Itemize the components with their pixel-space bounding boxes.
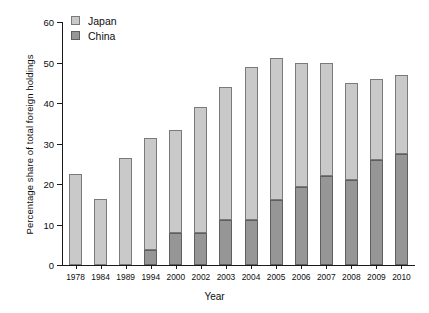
bar-segment-china-2007[interactable] xyxy=(320,176,333,265)
y-tick-label: 50 xyxy=(43,57,54,68)
bar-segment-china-2004[interactable] xyxy=(245,220,258,265)
bar-segment-china-2009[interactable] xyxy=(370,160,383,265)
x-tick-mark-1989 xyxy=(126,265,127,269)
bar-segment-japan-2005[interactable] xyxy=(270,58,283,200)
bar-segment-japan-2000[interactable] xyxy=(169,130,182,232)
bar-segment-china-2003[interactable] xyxy=(219,220,232,265)
x-tick-mark-2004 xyxy=(251,265,252,269)
y-tick-label: 60 xyxy=(43,17,54,28)
chart-legend: Japan China xyxy=(71,14,117,44)
legend-item-china: China xyxy=(71,29,117,42)
x-tick-mark-1984 xyxy=(101,265,102,269)
x-tick-mark-2006 xyxy=(301,265,302,269)
legend-label-japan: Japan xyxy=(88,15,117,27)
y-tick-mark xyxy=(57,103,62,104)
y-tick-mark xyxy=(57,22,62,23)
legend-swatch-japan-icon xyxy=(71,16,80,25)
y-tick-mark xyxy=(57,184,62,185)
legend-label-china: China xyxy=(88,30,115,42)
bar-segment-japan-2008[interactable] xyxy=(345,83,358,180)
x-tick-label-2002: 2002 xyxy=(192,272,211,282)
x-tick-label-1978: 1978 xyxy=(66,272,85,282)
y-tick-label: 40 xyxy=(43,98,54,109)
x-tick-mark-2010 xyxy=(401,265,402,269)
x-tick-mark-2003 xyxy=(226,265,227,269)
y-axis-title: Percentage share of total foreign holdin… xyxy=(24,20,35,270)
x-axis-line xyxy=(62,265,415,266)
y-tick-mark xyxy=(57,265,62,266)
bar-segment-japan-1984[interactable] xyxy=(94,199,107,265)
x-tick-mark-2002 xyxy=(201,265,202,269)
bar-segment-china-2010[interactable] xyxy=(395,154,408,265)
bar-segment-japan-2010[interactable] xyxy=(395,75,408,154)
bar-segment-china-2005[interactable] xyxy=(270,200,283,265)
plot-area: 0102030405060 19781984198919942000200220… xyxy=(62,22,414,265)
x-tick-label-2010: 2010 xyxy=(392,272,411,282)
bar-segment-japan-2007[interactable] xyxy=(320,63,333,176)
x-tick-mark-1978 xyxy=(76,265,77,269)
bar-segment-japan-2004[interactable] xyxy=(245,67,258,221)
x-tick-label-1994: 1994 xyxy=(141,272,160,282)
bar-segment-china-1994[interactable] xyxy=(144,250,157,265)
y-tick-mark xyxy=(57,225,62,226)
x-tick-mark-2009 xyxy=(376,265,377,269)
x-tick-label-2009: 2009 xyxy=(367,272,386,282)
bar-segment-japan-1994[interactable] xyxy=(144,138,157,250)
bar-segment-china-2000[interactable] xyxy=(169,233,182,265)
bar-segment-japan-1989[interactable] xyxy=(119,158,132,265)
x-axis-title: Year xyxy=(0,291,429,302)
x-tick-mark-2005 xyxy=(276,265,277,269)
x-tick-mark-1994 xyxy=(151,265,152,269)
y-tick-label: 30 xyxy=(43,138,54,149)
bar-segment-china-2008[interactable] xyxy=(345,180,358,265)
x-tick-label-1984: 1984 xyxy=(91,272,110,282)
bar-segment-china-2006[interactable] xyxy=(295,187,308,265)
bar-series-container xyxy=(63,22,414,265)
x-tick-label-2008: 2008 xyxy=(342,272,361,282)
stacked-bar-chart: Percentage share of total foreign holdin… xyxy=(0,0,429,313)
x-tick-label-1989: 1989 xyxy=(116,272,135,282)
legend-item-japan: Japan xyxy=(71,14,117,27)
x-tick-label-2000: 2000 xyxy=(166,272,185,282)
x-tick-label-2004: 2004 xyxy=(242,272,261,282)
y-tick-label: 0 xyxy=(49,260,54,271)
y-tick-label: 10 xyxy=(43,219,54,230)
y-tick-mark xyxy=(57,144,62,145)
bar-segment-japan-2006[interactable] xyxy=(295,63,308,188)
legend-swatch-china-icon xyxy=(71,31,80,40)
bar-segment-china-2002[interactable] xyxy=(194,233,207,265)
x-tick-label-2003: 2003 xyxy=(217,272,236,282)
x-tick-mark-2007 xyxy=(326,265,327,269)
x-tick-label-2006: 2006 xyxy=(292,272,311,282)
bar-segment-japan-2009[interactable] xyxy=(370,79,383,160)
bar-segment-japan-2003[interactable] xyxy=(219,87,232,221)
bar-segment-japan-1978[interactable] xyxy=(69,174,82,265)
x-tick-mark-2008 xyxy=(351,265,352,269)
x-tick-label-2007: 2007 xyxy=(317,272,336,282)
x-tick-label-2005: 2005 xyxy=(267,272,286,282)
y-tick-label: 20 xyxy=(43,179,54,190)
bar-segment-japan-2002[interactable] xyxy=(194,107,207,233)
x-tick-mark-2000 xyxy=(176,265,177,269)
y-tick-mark xyxy=(57,63,62,64)
